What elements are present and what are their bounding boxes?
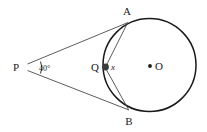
label-angle-p: 40° [39,64,50,73]
point-marker-o [148,64,152,68]
chord-line-qa [106,23,128,66]
tangent-line-pa [28,23,129,65]
label-point-q: Q [91,61,99,73]
label-point-o: O [155,60,163,72]
geometry-canvas: P A B Q O 40° x [0,0,207,132]
point-marker-q [102,64,109,71]
label-point-a: A [123,5,131,17]
geometry-figure: P A B Q O 40° x [0,0,207,132]
label-angle-x: x [110,62,115,72]
tangent-line-pb [28,71,130,111]
label-point-b: B [125,115,132,127]
label-point-p: P [13,61,19,73]
